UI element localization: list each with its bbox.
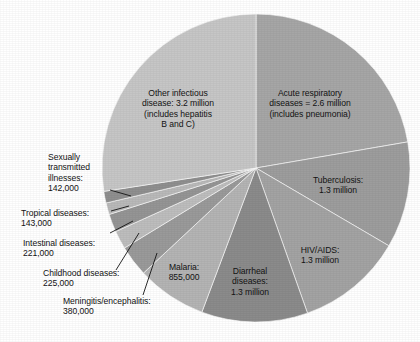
slice-label-tuberculosis: Tuberculosis: 1.3 million — [313, 175, 363, 196]
slice-label-meningitis-encephalitis: Meningitis/encephalitis: 380,000 — [63, 296, 151, 317]
slice-label-other-infectious-disease: Other infectious disease: 3.2 million (i… — [142, 88, 214, 130]
slice-label-diarrheal-diseases: Diarrheal diseases: 1.3 million — [231, 266, 269, 297]
slice-label-acute-respiratory-diseases: Acute respiratory diseases = 2.6 million… — [269, 88, 350, 119]
slice-label-intestinal-diseases: Intestinal diseases: 221,000 — [23, 238, 95, 259]
slice-label-hiv-aids: HIV/AIDS: 1.3 million — [301, 245, 340, 266]
slice-label-childhood-diseases: Childhood diseases: 225,000 — [43, 268, 119, 289]
pie-chart-figure: Acute respiratory diseases = 2.6 million… — [0, 0, 420, 342]
slice-label-tropical-diseases: Tropical diseases: 143,000 — [21, 208, 89, 229]
slice-label-sexually-transmitted-illnesses: Sexually transmitted illnesses: 142,000 — [48, 152, 90, 194]
slice-label-malaria: Malaria: 855,000 — [169, 262, 200, 283]
